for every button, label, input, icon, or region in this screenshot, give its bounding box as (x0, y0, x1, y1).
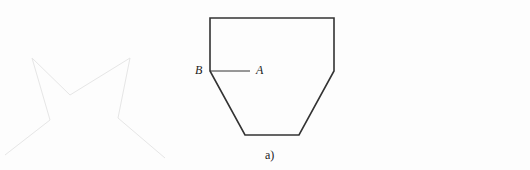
hopper-outline (210, 18, 334, 135)
label-point-a: A (256, 63, 263, 78)
label-point-b: B (195, 63, 202, 78)
diagram-canvas (0, 0, 530, 170)
bleed-through-star-left (5, 58, 50, 155)
figure-caption: a) (265, 148, 274, 163)
bleed-through-star (32, 58, 165, 158)
